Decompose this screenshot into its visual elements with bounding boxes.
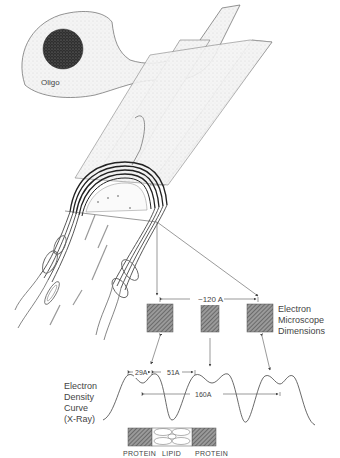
- em-boxes: [147, 304, 273, 332]
- bilayer-label-lipid: LIPID: [162, 448, 181, 458]
- em-dimensions-label: Electron Microscope Dimensions: [278, 304, 325, 337]
- oligo-label: Oligo: [41, 77, 60, 88]
- em-period-label: ~120 A: [197, 294, 224, 305]
- em-box-right: [247, 304, 273, 332]
- oligo-nucleus: [43, 29, 83, 69]
- em-label-line-1: Electron: [278, 304, 325, 315]
- em-box-middle: [201, 304, 219, 332]
- density-label-line-1: Electron: [64, 381, 97, 392]
- em-label-line-3: Dimensions: [278, 326, 325, 337]
- em-label-line-2: Microscope: [278, 315, 325, 326]
- density-label-line-4: (X-Ray): [64, 414, 97, 425]
- bilayer-label-protein-left: PROTEIN: [123, 448, 156, 458]
- em-box-left: [147, 304, 173, 332]
- bilayer-label-protein-right: PROTEIN: [195, 448, 228, 458]
- correlation-arrows: [151, 336, 270, 370]
- projection-lines: [65, 211, 258, 296]
- density-label-line-3: Curve: [64, 403, 97, 414]
- bilayer-schematic: [128, 428, 216, 446]
- density-curve-label: Electron Density Curve (X-Ray): [64, 381, 97, 425]
- measure-51a: 51A: [166, 367, 180, 378]
- myelin-diagram: [0, 0, 340, 458]
- measure-160a: 160A: [194, 389, 212, 400]
- measure-29a: 29A: [134, 367, 148, 378]
- density-label-line-2: Density: [64, 392, 97, 403]
